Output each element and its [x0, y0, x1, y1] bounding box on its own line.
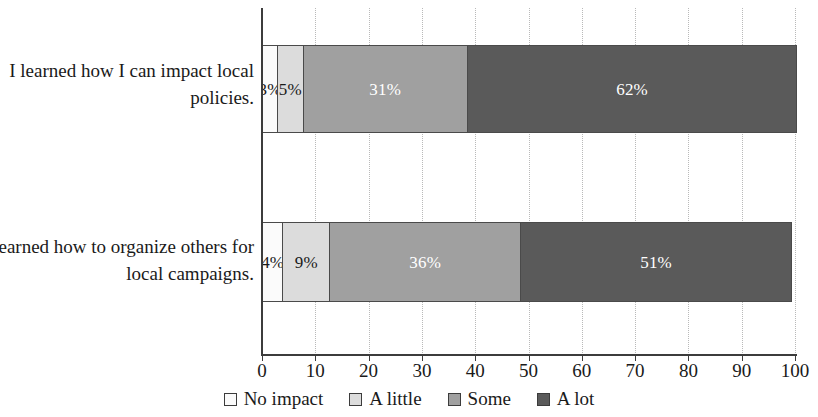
bar-segment-label: 9% — [295, 254, 318, 271]
bar-segment: 9% — [282, 222, 330, 302]
legend-label: No impact — [244, 388, 324, 410]
bar-segment: 36% — [329, 222, 521, 302]
bar-segment: 4% — [262, 222, 283, 302]
bar-segment-label: 62% — [616, 81, 648, 98]
legend-label: A lot — [557, 388, 594, 410]
category-label: I learned how to organize others for loc… — [0, 234, 254, 288]
plot-area: 3%5%31%62% 4%9%36%51% — [262, 8, 795, 355]
bar-segment-label: 31% — [369, 81, 401, 98]
bar-segment-label: 51% — [640, 254, 672, 271]
bar-row: 3%5%31%62% — [262, 45, 797, 133]
category-label: I learned how I can impact local policie… — [0, 58, 254, 112]
stacked-bar-chart: 3%5%31%62% 4%9%36%51% I learned how I ca… — [0, 0, 818, 417]
x-axis-tick-label: 100 — [765, 360, 818, 382]
legend-swatch-icon — [349, 393, 362, 406]
bar-segment: 31% — [303, 45, 468, 133]
x-axis-tick-label: 40 — [445, 360, 505, 382]
bar-segment: 51% — [520, 222, 792, 302]
bar-row: 4%9%36%51% — [262, 222, 792, 302]
chart-legend: No impactA littleSomeA lot — [0, 388, 818, 410]
bar-segment-label: 5% — [279, 81, 302, 98]
x-axis-tick-label: 0 — [232, 360, 292, 382]
legend-swatch-icon — [448, 393, 461, 406]
bar-segment-label: 36% — [409, 254, 441, 271]
bar-segment-label: 3% — [262, 81, 278, 98]
bar-segment: 5% — [277, 45, 304, 133]
x-axis-tick-label: 20 — [339, 360, 399, 382]
x-axis-tick-label: 30 — [392, 360, 452, 382]
legend-item[interactable]: Some — [448, 388, 511, 410]
bar-segment: 62% — [467, 45, 797, 133]
legend-label: A little — [369, 388, 421, 410]
legend-label: Some — [468, 388, 511, 410]
x-axis-tick-label: 70 — [605, 360, 665, 382]
legend-item[interactable]: No impact — [224, 388, 324, 410]
x-axis-tick-label: 80 — [658, 360, 718, 382]
legend-swatch-icon — [537, 393, 550, 406]
x-axis-tick-label: 50 — [499, 360, 559, 382]
legend-item[interactable]: A lot — [537, 388, 594, 410]
legend-swatch-icon — [224, 393, 237, 406]
x-axis-tick-label: 90 — [712, 360, 772, 382]
x-axis-tick-label: 10 — [285, 360, 345, 382]
y-axis-line — [261, 8, 263, 355]
bar-segment: 3% — [262, 45, 278, 133]
legend-item[interactable]: A little — [349, 388, 421, 410]
bar-segment-label: 4% — [262, 254, 283, 271]
x-axis-tick-label: 60 — [552, 360, 612, 382]
